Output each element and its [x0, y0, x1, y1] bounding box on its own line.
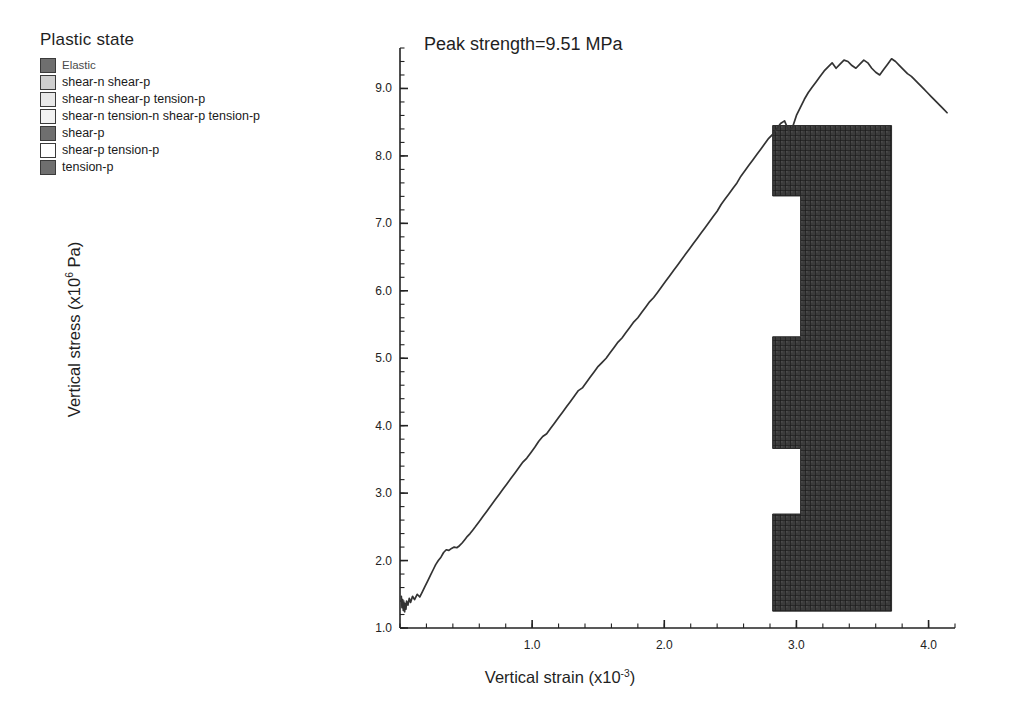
plot-canvas	[0, 0, 1018, 720]
stress-strain-plot: Peak strength=9.51 MPa Vertical stress (…	[0, 0, 1018, 720]
plastic-state-mesh-inset	[773, 126, 892, 612]
